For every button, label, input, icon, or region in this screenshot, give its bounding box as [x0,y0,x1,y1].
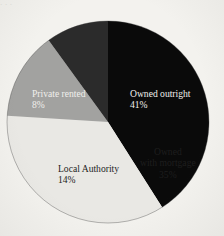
pie-label-owned-outright: Owned outright 41% [130,88,191,111]
pie-label-private-rented-name: Private rented [32,88,86,99]
pie-slices [7,21,209,223]
pie-label-owned-with-mortgage-value: 35% [140,169,196,180]
pie-label-owned-with-mortgage-name-line1: Owned [140,146,196,157]
pie-label-owned-with-mortgage: Owned with mortgage 35% [140,146,196,180]
pie-label-private-rented: Private rented 8% [32,88,86,111]
pie-label-local-authority-value: 14% [58,174,119,185]
pie-label-local-authority-name: Local Authority [58,163,119,174]
pie-chart-graphic [0,0,224,236]
pie-label-owned-outright-name: Owned outright [130,88,191,99]
pie-label-owned-outright-value: 41% [130,99,191,110]
pie-label-owned-with-mortgage-name-line2: with mortgage [140,157,196,168]
pie-label-private-rented-value: 8% [32,99,86,110]
pie-label-local-authority: Local Authority 14% [58,163,119,186]
pie-chart-figure: · · · Owned outright 41% Owned with mort… [0,0,224,236]
